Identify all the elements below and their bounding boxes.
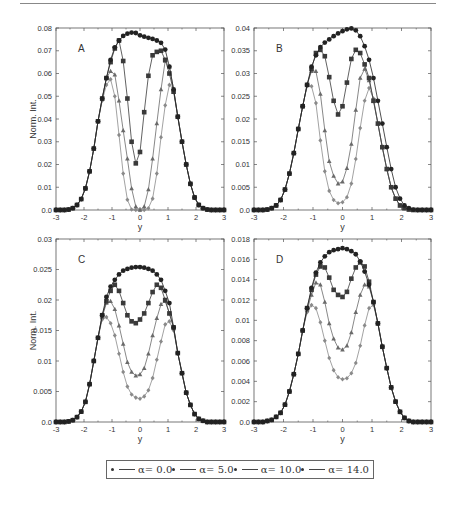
chart-panel-c: -3-2-101230.00.0050.010.0150.020.0250.03…: [28, 235, 226, 445]
x-tick-label: 2: [399, 425, 403, 434]
x-tick-label: 1: [166, 425, 170, 434]
series-10.0: [54, 58, 227, 211]
x-tick-label: 0: [138, 425, 142, 434]
x-axis-label: y: [340, 434, 345, 444]
x-tick-label: -3: [251, 213, 258, 222]
y-tick-label: 0.0: [240, 418, 250, 427]
y-tick-label: 0.05: [37, 92, 52, 101]
y-tick-label: 0.014: [231, 275, 250, 284]
y-tick-label: 0.016: [231, 255, 250, 264]
legend-marker-icon: [111, 468, 114, 471]
x-tick-label: 3: [222, 425, 226, 434]
legend-label: α= 5.0: [199, 464, 233, 475]
legend-item-alpha-10: α= 10.0: [234, 464, 302, 475]
panel-label: D: [276, 254, 283, 265]
chart-panel-b: -3-2-101230.00.0050.010.0150.020.0250.03…: [231, 24, 433, 233]
x-tick-label: 3: [429, 213, 433, 222]
x-tick-label: 1: [166, 213, 170, 222]
panel-label: B: [276, 43, 283, 54]
y-tick-label: 0.035: [231, 46, 250, 55]
y-tick-label: 0.006: [231, 357, 250, 366]
series-14.0: [252, 303, 433, 425]
x-tick-label: -1: [310, 425, 317, 434]
series-5.0: [54, 282, 227, 424]
series-14.0: [54, 77, 226, 212]
y-tick-label: 0.005: [33, 387, 52, 396]
y-tick-label: 0.0: [42, 206, 52, 215]
y-tick-label: 0.04: [235, 24, 250, 33]
x-axis-label: y: [138, 222, 143, 232]
legend-item-alpha-0: α= 0.0: [111, 464, 172, 475]
legend-line-icon: [242, 469, 258, 470]
x-tick-label: -1: [310, 213, 317, 222]
y-tick-label: 0.03: [235, 69, 250, 78]
series-5.0: [252, 260, 434, 424]
x-tick-label: 2: [194, 425, 198, 434]
x-tick-label: -2: [280, 425, 287, 434]
x-tick-label: -3: [53, 425, 60, 434]
x-tick-label: -1: [109, 213, 116, 222]
x-tick-label: 3: [429, 425, 433, 434]
x-tick-label: 0: [340, 213, 344, 222]
series-5.0: [54, 38, 227, 212]
x-tick-label: 2: [194, 213, 198, 222]
x-tick-label: 2: [399, 213, 403, 222]
x-tick-label: -3: [53, 213, 60, 222]
legend-line-icon: [119, 469, 135, 470]
y-tick-label: 0.005: [231, 183, 250, 192]
y-tick-label: 0.004: [231, 377, 250, 386]
series-0.0: [252, 246, 434, 425]
legend-label: α= 0.0: [138, 464, 172, 475]
y-tick-label: 0.01: [37, 183, 52, 192]
series-10.0: [252, 66, 434, 211]
y-tick-label: 0.018: [231, 235, 250, 244]
series-14.0: [252, 84, 433, 212]
legend-label: α= 10.0: [261, 464, 302, 475]
plot-frame: [254, 239, 431, 422]
legend-item-alpha-14: α= 14.0: [301, 464, 369, 475]
series-5.0: [252, 48, 434, 213]
x-axis-label: y: [138, 434, 143, 444]
legend-item-alpha-5: α= 5.0: [172, 464, 233, 475]
series-0.0: [54, 30, 227, 212]
y-tick-label: 0.02: [235, 115, 250, 124]
legend-line-icon: [309, 469, 325, 470]
y-tick-label: 0.002: [231, 397, 250, 406]
y-tick-label: 0.008: [231, 336, 250, 345]
y-tick-label: 0.025: [33, 265, 52, 274]
y-axis-label: Norm. Int.: [28, 99, 38, 139]
y-tick-label: 0.04: [37, 115, 52, 124]
x-tick-label: 0: [138, 213, 142, 222]
y-tick-label: 0.01: [37, 357, 52, 366]
legend-line-icon: [180, 469, 196, 470]
series-10.0: [252, 280, 434, 424]
legend-marker-icon: [301, 468, 304, 471]
x-tick-label: -2: [280, 213, 287, 222]
x-tick-label: 3: [222, 213, 226, 222]
legend-marker-icon: [172, 468, 175, 471]
legend: α= 0.0 α= 5.0 α= 10.0 α= 14.0: [106, 460, 374, 479]
x-tick-label: 1: [370, 213, 374, 222]
x-tick-label: -3: [251, 425, 258, 434]
y-tick-label: 0.015: [231, 137, 250, 146]
series-14.0: [54, 315, 226, 425]
x-tick-label: -2: [81, 213, 88, 222]
legend-label: α= 14.0: [328, 464, 369, 475]
panel-label: A: [78, 43, 85, 54]
legend-marker-icon: [234, 468, 237, 471]
figure-panels: -3-2-101230.00.010.020.030.040.050.060.0…: [0, 0, 454, 507]
y-tick-label: 0.03: [37, 235, 52, 244]
panel-label: C: [78, 254, 85, 265]
y-tick-label: 0.07: [37, 46, 52, 55]
chart-panel-d: -3-2-101230.00.0020.0040.0060.0080.010.0…: [231, 235, 433, 445]
y-tick-label: 0.02: [37, 160, 52, 169]
x-tick-label: -1: [109, 425, 116, 434]
y-axis-label: Norm. Int.: [28, 311, 38, 351]
x-tick-label: 1: [370, 425, 374, 434]
y-tick-label: 0.0: [240, 206, 250, 215]
x-tick-label: -2: [81, 425, 88, 434]
y-tick-label: 0.0: [42, 418, 52, 427]
y-tick-label: 0.01: [235, 160, 250, 169]
y-tick-label: 0.06: [37, 69, 52, 78]
plot-frame: [56, 28, 224, 210]
